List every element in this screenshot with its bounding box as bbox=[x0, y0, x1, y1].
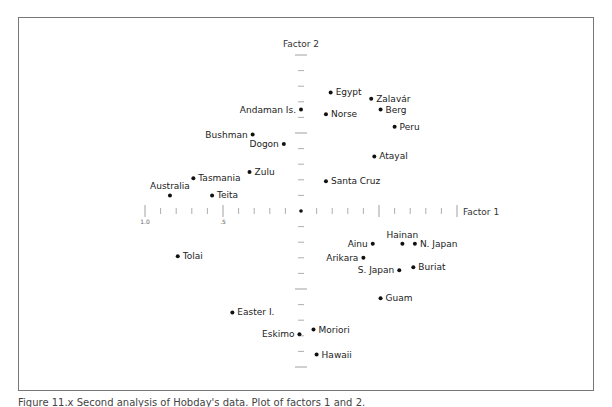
origin-marker bbox=[299, 209, 303, 213]
point-label: Tolai bbox=[182, 251, 203, 261]
point-label: Australia bbox=[150, 181, 190, 191]
data-point: Tasmania bbox=[191, 173, 240, 183]
point-marker bbox=[379, 296, 383, 300]
point-marker bbox=[372, 154, 376, 158]
data-point: Bushman bbox=[205, 130, 254, 140]
point-label: Santa Cruz bbox=[331, 176, 381, 186]
point-label: Tasmania bbox=[197, 173, 240, 183]
point-marker bbox=[413, 242, 417, 246]
point-marker bbox=[361, 256, 365, 260]
x-tick-label: 1.0 bbox=[140, 218, 150, 225]
scatter-plot: Factor 1 Factor 2 1.0.5 EgyptZalavárBerg… bbox=[0, 0, 612, 407]
x-tick-label: .5 bbox=[220, 218, 226, 225]
point-label: Hainan bbox=[387, 230, 419, 240]
point-label: Arikara bbox=[326, 253, 358, 263]
data-point: Easter I. bbox=[230, 307, 274, 317]
point-label: Berg bbox=[386, 105, 407, 115]
point-marker bbox=[176, 254, 180, 258]
point-marker bbox=[251, 133, 255, 137]
point-marker bbox=[248, 170, 252, 174]
point-label: Hawaii bbox=[322, 350, 352, 360]
point-label: Moriori bbox=[318, 325, 349, 335]
point-label: Buriat bbox=[418, 262, 446, 272]
point-label: Egypt bbox=[336, 87, 362, 97]
point-marker bbox=[230, 310, 234, 314]
point-label: Dogon bbox=[249, 139, 278, 149]
point-label: Teita bbox=[216, 190, 238, 200]
point-marker bbox=[210, 193, 214, 197]
point-label: Norse bbox=[331, 109, 358, 119]
point-marker bbox=[369, 97, 373, 101]
point-label: Andaman Is. bbox=[240, 105, 296, 115]
point-label: Guam bbox=[386, 293, 413, 303]
point-label: Ainu bbox=[348, 239, 368, 249]
x-axis-label: Factor 1 bbox=[463, 207, 499, 217]
point-marker bbox=[324, 179, 328, 183]
y-axis-label: Factor 2 bbox=[283, 39, 319, 49]
point-marker bbox=[297, 332, 301, 336]
point-label: N. Japan bbox=[420, 239, 458, 249]
point-label: Zulu bbox=[255, 167, 275, 177]
point-marker bbox=[315, 353, 319, 357]
point-label: Atayal bbox=[379, 151, 407, 161]
plot-border bbox=[19, 18, 594, 391]
point-label: S. Japan bbox=[358, 265, 395, 275]
point-marker bbox=[379, 108, 383, 112]
point-label: Zalavár bbox=[376, 94, 411, 104]
point-marker bbox=[311, 328, 315, 332]
data-point: N. Japan bbox=[413, 239, 458, 249]
point-marker bbox=[329, 90, 333, 94]
point-marker bbox=[393, 125, 397, 129]
point-marker bbox=[397, 268, 401, 272]
figure-caption: Figure 11.x Second analysis of Hobday's … bbox=[18, 396, 608, 407]
point-marker bbox=[168, 193, 172, 197]
point-marker bbox=[299, 108, 303, 112]
point-label: Bushman bbox=[205, 130, 247, 140]
point-marker bbox=[400, 242, 404, 246]
point-marker bbox=[282, 142, 286, 146]
point-marker bbox=[191, 176, 195, 180]
point-label: Peru bbox=[400, 122, 420, 132]
point-label: Eskimo bbox=[262, 329, 295, 339]
data-point: Santa Cruz bbox=[324, 176, 381, 186]
data-point: Zalavár bbox=[369, 94, 411, 104]
data-point: Andaman Is. bbox=[240, 105, 303, 115]
point-marker bbox=[371, 242, 375, 246]
point-label: Easter I. bbox=[237, 307, 274, 317]
point-marker bbox=[324, 112, 328, 116]
point-marker bbox=[411, 265, 415, 269]
